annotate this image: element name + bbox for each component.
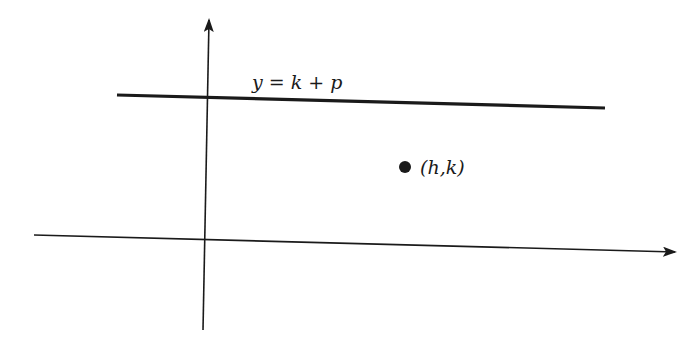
directrix-line: [117, 95, 605, 108]
directrix-label: y = k + p: [251, 71, 342, 93]
coordinate-diagram: y = k + p (h,k): [0, 0, 700, 356]
y-axis: [203, 20, 209, 330]
x-axis: [34, 235, 675, 252]
vertex-label: (h,k): [420, 156, 465, 178]
vertex-point: [399, 161, 411, 173]
